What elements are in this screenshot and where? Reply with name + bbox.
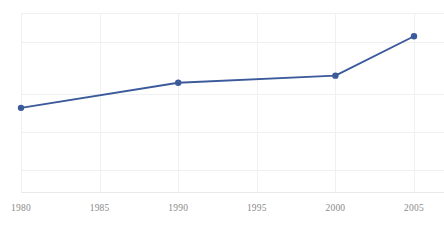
chart-plot-area	[0, 0, 444, 233]
vertical-gridlines	[22, 13, 415, 192]
line-chart: 198019851990199520002005	[0, 0, 444, 233]
data-point-marker[interactable]	[175, 80, 181, 86]
data-point-marker[interactable]	[411, 33, 417, 39]
data-point-marker[interactable]	[332, 72, 338, 78]
series-group	[18, 33, 417, 111]
series-line	[21, 36, 414, 108]
data-point-marker[interactable]	[18, 105, 24, 111]
horizontal-gridlines	[21, 14, 444, 171]
